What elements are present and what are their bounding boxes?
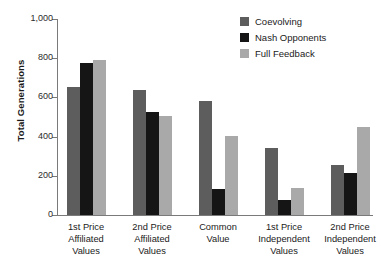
bar <box>291 188 304 215</box>
bar <box>225 136 238 215</box>
bar <box>331 165 344 215</box>
y-axis-tick-label: 1,000 <box>30 13 53 23</box>
legend-item[interactable]: Full Feedback <box>240 46 380 60</box>
legend-item[interactable]: Coevolving <box>240 14 380 28</box>
bar-chart-figure: Total Generations 1,0008006004002000 1st… <box>0 0 381 270</box>
bar-group <box>67 19 106 215</box>
y-axis-tick-label: 600 <box>38 91 53 101</box>
x-axis-label-line: Independent <box>307 233 381 245</box>
bar <box>146 112 159 215</box>
y-axis-tick-label: 400 <box>38 131 53 141</box>
y-axis-line <box>57 19 58 215</box>
x-axis-label-line: Values <box>307 245 381 257</box>
legend-item-label: Coevolving <box>255 16 302 27</box>
legend-item[interactable]: Nash Opponents <box>240 30 380 44</box>
legend-item-label: Full Feedback <box>255 48 315 59</box>
bar <box>199 101 212 215</box>
y-axis-tick-label: 200 <box>38 170 53 180</box>
bar <box>357 127 370 215</box>
y-axis-tick-label: 800 <box>38 52 53 62</box>
x-axis-label: 2nd PriceIndependentValues <box>307 221 381 258</box>
legend-item-label: Nash Opponents <box>255 32 326 43</box>
bar <box>265 148 278 215</box>
bar <box>278 200 291 215</box>
bar-group <box>133 19 172 215</box>
legend-swatch-nash-opponents <box>240 33 249 42</box>
bar <box>80 63 93 215</box>
legend-swatch-full-feedback <box>240 49 249 58</box>
x-axis-label-line: Values <box>109 245 195 257</box>
chart-legend: CoevolvingNash OpponentsFull Feedback <box>240 14 380 62</box>
bar <box>212 189 225 215</box>
bar <box>133 90 146 215</box>
bar <box>344 173 357 215</box>
legend-swatch-coevolving <box>240 17 249 26</box>
x-axis-label-line: 2nd Price <box>307 221 381 233</box>
y-axis-tick-label: 0 <box>48 209 53 219</box>
bar <box>93 60 106 215</box>
y-axis-title: Total Generations <box>15 41 26 161</box>
x-axis-line <box>57 215 373 216</box>
bar-group <box>199 19 238 215</box>
bar <box>159 116 172 215</box>
bar <box>67 87 80 215</box>
